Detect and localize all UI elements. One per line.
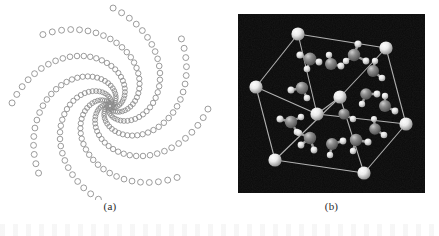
spiral-marker [121,176,127,182]
spiral-marker [107,170,113,176]
spiral-marker [134,65,139,70]
spiral-marker [75,75,80,80]
spiral-marker [154,151,160,157]
spiral-marker [133,153,139,159]
spiral-marker [165,177,171,183]
spiral-marker [140,132,145,137]
spiral-marker [49,29,55,35]
spiral-marker [128,55,133,60]
spiral-marker [31,142,37,148]
spiral-marker [44,97,50,103]
spiral-marker [200,115,206,121]
spiral-marker [40,103,46,109]
spiral-marker [157,77,163,83]
spiral-marker [81,53,87,59]
spiral-marker [145,130,150,135]
spiral-marker [189,129,195,135]
spiral-marker [57,129,63,135]
panel-b-caption: (b) [238,200,425,212]
spiral-marker [183,73,189,79]
spiral-marker [156,124,161,129]
spiral-marker [140,153,146,159]
spiral-marker [81,141,86,146]
spiral-marker [68,27,74,33]
spiral-marker [60,150,66,156]
spiral-marker [101,33,107,39]
spiral-marker [60,117,65,122]
spiral-marker [62,111,67,116]
spiral-marker [69,77,74,82]
spiral-marker [86,152,91,157]
spiral-marker [104,60,109,65]
spiral-marker [90,157,96,163]
spiral-marker [121,151,126,156]
spiral-marker [183,135,189,141]
scan-bleed-artifact [0,224,439,236]
spiral-marker [32,71,38,77]
spiral-marker [149,42,155,48]
figure-root: (a) [0,0,439,236]
spiral-marker [145,34,151,40]
spiral-marker [180,89,186,95]
spiral-marker [78,126,83,131]
spiral-marker [176,141,182,147]
spiral-marker [170,110,176,116]
panel-b-crystal-structure [238,14,425,193]
spiral-marker [124,49,130,55]
spiral-marker [14,91,20,97]
spiral-marker [65,165,71,171]
spiral-marker [40,32,46,38]
spiral-marker [37,110,43,116]
spiral-marker [58,143,64,149]
spiral-marker [151,127,156,132]
spiral-marker [183,55,189,61]
spiral-marker [110,146,115,151]
spiral-marker [162,148,168,154]
spiral-marker [133,21,139,27]
spiral-marker [174,174,180,180]
spiral-marker [83,147,88,152]
spiral-marker [67,54,73,60]
spiral-marker [152,49,158,55]
spiral-marker [178,97,184,103]
spiral-marker [119,10,125,16]
film-grain-overlay [238,14,425,193]
spiral-marker [31,151,37,157]
spiral-marker [150,100,155,105]
spiral-marker [59,82,64,87]
spiral-marker [110,5,116,11]
spiral-marker [81,185,87,191]
spiral-marker [137,76,142,81]
spiral-marker [77,27,83,33]
spiral-marker [99,58,104,63]
spiral-marker [139,28,145,34]
spiral-marker [114,40,120,46]
spiral-marker [135,133,140,138]
spiral-marker [166,115,172,121]
spiral-marker [59,27,65,33]
spiral-marker [57,136,63,142]
spiral-marker [156,84,161,89]
spiral-marker [155,179,161,185]
spiral-marker [157,70,163,76]
spiral-marker [127,152,132,157]
spiral-marker [129,178,135,184]
spiral-marker [88,54,93,59]
spiral-marker [161,120,167,126]
spiral-marker [101,166,107,172]
spiral-marker [85,28,91,34]
spiral-marker [94,56,99,61]
spiral-marker [62,158,68,164]
spiral-marker [155,56,161,62]
spiral-marker [147,152,153,158]
spiral-marker [195,122,201,128]
spiral-marker [85,74,90,79]
spiral-marker [130,133,135,138]
spiral-marker [137,81,142,86]
spiral-marker [36,170,42,176]
spiral-marker [153,95,158,100]
spiral-marker [205,106,211,112]
spiral-marker [174,103,180,109]
spiral-marker [169,145,175,151]
spiral-marker [114,174,120,180]
